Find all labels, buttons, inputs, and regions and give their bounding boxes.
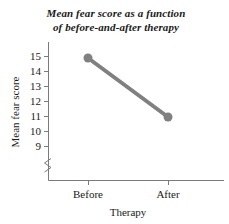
chart-figure: Mean fear score as a function of before-… — [0, 0, 229, 224]
line-chart-plot: 15 14 13 12 11 10 9 Before After Therapy… — [0, 0, 229, 224]
y-tick-label-15: 15 — [30, 50, 42, 62]
y-axis-ticks — [44, 57, 49, 147]
y-tick-label-11: 11 — [30, 110, 41, 122]
x-axis-title: Therapy — [110, 206, 147, 218]
data-line-segment — [88, 58, 168, 117]
data-point-before — [84, 54, 93, 63]
y-tick-label-9: 9 — [36, 140, 42, 152]
y-axis-title: Mean fear score — [9, 76, 21, 147]
y-axis-break-icon — [45, 159, 52, 173]
y-tick-label-12: 12 — [30, 95, 41, 107]
y-tick-label-13: 13 — [30, 80, 42, 92]
y-tick-label-10: 10 — [30, 125, 42, 137]
data-point-after — [164, 113, 173, 122]
x-category-label-after: After — [156, 188, 180, 200]
x-category-label-before: Before — [73, 188, 103, 200]
y-tick-label-14: 14 — [30, 65, 42, 77]
